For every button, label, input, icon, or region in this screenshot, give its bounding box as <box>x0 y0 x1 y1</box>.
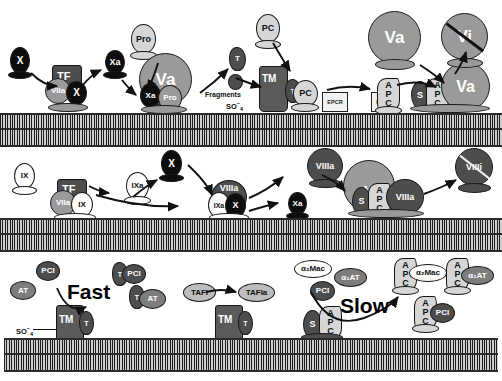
arrow-tf-to-xa <box>82 70 101 86</box>
sulfate-label-row1: SO–4 <box>226 100 243 112</box>
tafi-zymogen: TAFI <box>183 283 216 302</box>
pci-free: PCI <box>36 261 60 281</box>
alpha1-antitrypsin-free: α₁AT <box>334 268 367 287</box>
epcr-left: EPCR <box>322 92 348 112</box>
pci-bound: PCI <box>430 303 455 323</box>
va-complex-foot <box>410 104 490 113</box>
thrombin-pci-serpin: PCI <box>122 264 146 284</box>
membrane-row3-top <box>0 233 502 252</box>
apc-a2mac-foot <box>392 286 419 295</box>
tf-complex-foot <box>48 103 88 112</box>
apc-pci-foot <box>412 324 439 333</box>
thrombin-row1: T <box>229 47 246 71</box>
thrombin-on-tm-row3-1: T <box>79 311 94 335</box>
thrombin-at-serpin: AT <box>139 289 166 309</box>
pci-free-row3: PCI <box>310 281 335 301</box>
sulfate-count-row3: 4 <box>30 331 33 337</box>
arrow-va-to-thrombin <box>200 69 228 93</box>
factor-x-free-row2: X <box>161 150 182 177</box>
factor-va-free: Va <box>368 11 421 64</box>
thrombomodulin-label-row1: TM <box>262 73 276 84</box>
arrow-complex-to-viiii <box>424 180 456 194</box>
at-free: AT <box>10 281 36 300</box>
arrow-ix-to-tf2 <box>89 186 109 193</box>
factor-x-free-foot-row2 <box>159 174 184 182</box>
tafia-active: TAFIa <box>238 283 275 302</box>
protein-c-free-foot <box>255 40 281 49</box>
a1at-bound: α₁AT <box>461 266 494 285</box>
a2mac-bound: α₂Mac <box>409 264 447 282</box>
prothrombin-free: Pro <box>131 24 156 54</box>
membrane-row2-top <box>0 128 502 147</box>
sulfate-leader-line <box>33 329 57 330</box>
fragments-label: Fragments <box>205 91 241 98</box>
factor-ix-free-foot <box>12 186 37 195</box>
membrane-row3-bottom2 <box>4 353 498 372</box>
factor-vi-foot <box>447 58 483 68</box>
v-complex-foot <box>348 209 424 218</box>
thrombomodulin-label-row3-1: TM <box>59 314 73 325</box>
arrow-xa-to-complex <box>122 80 136 95</box>
arrow-viiia-to-viiia-free <box>249 177 283 198</box>
figure-canvas: X TF VIIa X Xa Pro Va Xa Pro T Fragments… <box>0 0 502 381</box>
factor-x-free-foot <box>8 71 32 79</box>
arrow-pc-to-apc <box>327 87 370 90</box>
factor-xa-free-foot <box>103 71 127 79</box>
thrombomodulin-label-row3-2: TM <box>218 314 232 325</box>
thrombin-on-tm-row3-2: T <box>238 311 253 335</box>
fast-label: Fast <box>67 280 110 304</box>
factor-ixa-free-foot <box>124 196 151 205</box>
factor-viiii-foot <box>458 183 491 193</box>
protein-c-free: PC <box>256 14 280 43</box>
sulfate-text-row3: SO <box>16 327 27 336</box>
factor-viiia-free-foot <box>309 179 342 188</box>
sulfate-count: 4 <box>240 106 243 112</box>
factor-x-bound-row1: X <box>66 81 87 105</box>
alpha2-macroglobulin-free: α₂Mac <box>294 260 332 278</box>
factor-va-free-foot <box>375 59 415 70</box>
arrow-x-to-viiia <box>188 165 212 195</box>
arrow-viiia-to-xa <box>249 203 278 211</box>
sulfate-label-row3: SO–4 <box>16 325 33 337</box>
fragments-shape <box>228 74 243 90</box>
slow-label: Slow <box>340 294 389 318</box>
sulfate-text: SO <box>226 102 237 111</box>
factor-x-free: X <box>10 47 30 74</box>
protein-c-bound-foot <box>291 103 319 112</box>
apc-a1at-foot <box>444 286 471 295</box>
